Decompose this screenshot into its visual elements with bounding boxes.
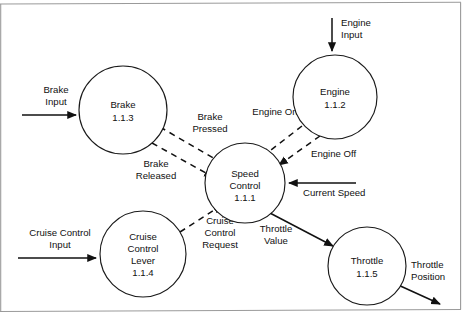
flow-label-cruise-control-input-line1: Cruise Control xyxy=(29,227,90,238)
flow-brake-input: Brake Input xyxy=(22,84,76,115)
process-bubble-engine[interactable]: Engine 1.1.2 xyxy=(293,55,377,139)
flow-label-cruise-control-request-line3: Request xyxy=(202,239,238,250)
process-bubble-throttle[interactable]: Throttle 1.1.5 xyxy=(328,227,406,305)
process-circle-cruise-control-lever[interactable] xyxy=(100,211,186,297)
process-number-engine: 1.1.2 xyxy=(324,99,345,110)
process-name-cruise-control-lever-line1: Cruise xyxy=(129,231,157,242)
flow-label-engine-input-line1: Engine xyxy=(341,17,371,28)
process-circle-engine[interactable] xyxy=(293,55,377,139)
process-name-cruise-control-lever-line3: Lever xyxy=(131,255,156,266)
flow-label-cruise-control-request-line2: Control xyxy=(205,227,236,238)
flow-label-throttle-position-line2: Position xyxy=(411,271,445,282)
flow-label-brake-pressed-line1: Brake xyxy=(197,111,222,122)
flow-label-engine-off: Engine Off xyxy=(311,148,356,159)
process-number-brake: 1.1.3 xyxy=(112,112,133,123)
flow-label-engine-on: Engine On xyxy=(252,106,297,117)
flow-label-brake-input-line2: Input xyxy=(45,96,67,107)
process-name-cruise-control-lever-line2: Control xyxy=(128,243,159,254)
flow-label-brake-released-line2: Released xyxy=(136,170,177,181)
process-bubble-brake[interactable]: Brake 1.1.3 xyxy=(79,66,167,154)
flow-cruise-control-input: Cruise Control Input xyxy=(18,227,96,258)
flow-brake-released: Brake Released xyxy=(136,143,213,181)
process-name-throttle: Throttle xyxy=(351,255,384,266)
process-name-speed-control-line1: Speed xyxy=(231,168,259,179)
process-bubble-speed-control[interactable]: Speed Control 1.1.1 xyxy=(205,143,285,223)
process-number-throttle: 1.1.5 xyxy=(356,268,377,279)
flow-label-brake-released-line1: Brake xyxy=(143,158,168,169)
flow-engine-off: Engine Off xyxy=(279,136,356,165)
dfd-svg: Brake Input Engine Input Cruise Control … xyxy=(0,0,462,320)
process-bubble-cruise-control-lever[interactable]: Cruise Control Lever 1.1.4 xyxy=(100,211,186,297)
flow-label-brake-pressed-line2: Pressed xyxy=(192,123,227,134)
process-number-cruise-control-lever: 1.1.4 xyxy=(132,267,154,278)
process-name-brake: Brake xyxy=(110,99,135,110)
flow-label-cruise-control-input-line2: Input xyxy=(49,239,71,250)
data-flow-diagram-canvas: Brake Input Engine Input Cruise Control … xyxy=(0,0,462,320)
flow-current-speed: Current Speed xyxy=(289,183,365,198)
flow-throttle-value: Throttle Value xyxy=(260,212,333,246)
flow-label-throttle-position-line1: Throttle xyxy=(411,259,444,270)
flow-engine-input: Engine Input xyxy=(332,17,371,51)
flow-label-brake-input-line1: Brake xyxy=(43,84,68,95)
process-number-speed-control: 1.1.1 xyxy=(234,192,255,203)
process-name-speed-control-line2: Control xyxy=(230,180,261,191)
flow-label-engine-input-line2: Input xyxy=(341,29,363,40)
process-circle-brake[interactable] xyxy=(79,66,167,154)
flow-label-throttle-value-line2: Value xyxy=(264,235,288,246)
flow-label-throttle-value-line1: Throttle xyxy=(260,223,293,234)
process-name-engine: Engine xyxy=(320,86,350,97)
process-circle-throttle[interactable] xyxy=(328,227,406,305)
flow-label-current-speed: Current Speed xyxy=(303,187,365,198)
